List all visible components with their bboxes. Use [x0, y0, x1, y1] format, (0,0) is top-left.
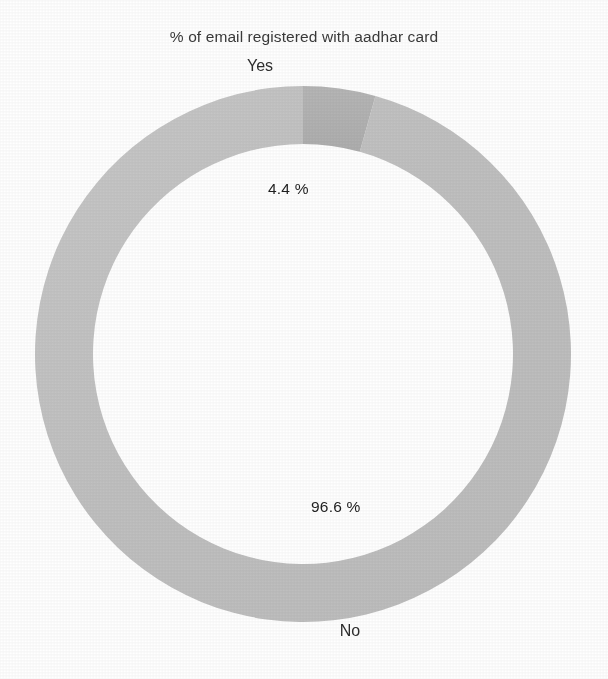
donut-ring-graphic: [0, 0, 608, 679]
pie-value-label-no: 96.6 %: [311, 498, 360, 516]
donut-chart-figure: % of email registered with aadhar card: [0, 0, 608, 679]
pie-category-label-no: No: [46, 622, 608, 640]
pie-slice-no: [35, 86, 571, 622]
pie-category-label-yes: Yes: [0, 57, 564, 75]
pie-value-label-yes: 4.4 %: [268, 180, 309, 198]
